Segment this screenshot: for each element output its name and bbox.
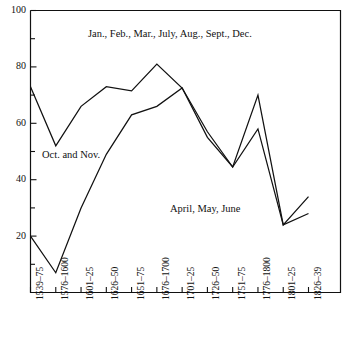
x-tick-label: 1626–50: [110, 266, 120, 299]
y-tick-label: 40: [0, 174, 26, 184]
x-tick-label: 1676–1700: [161, 257, 171, 300]
series-label-spring: April, May, June: [170, 203, 240, 215]
series-line-0: [31, 64, 309, 225]
x-tick-label: 1826–39: [313, 266, 323, 299]
x-tick-label: 1651–75: [136, 266, 146, 299]
x-tick-label: 1776–1800: [262, 257, 272, 300]
chart-root: 10080604020 1539–751576–16001601–251626–…: [0, 0, 351, 360]
x-tick-label: 1601–25: [85, 266, 95, 299]
x-tick-label: 1726–50: [211, 266, 221, 299]
y-tick-label: 80: [0, 61, 26, 71]
series-label-autumn: Oct. and Nov.: [42, 149, 100, 161]
line-chart-canvas: [0, 0, 351, 360]
series-label-winter: Jan., Feb., Mar., July, Aug., Sept., Dec…: [88, 28, 252, 40]
y-tick-label: 60: [0, 118, 26, 128]
x-tick-label: 1801–25: [287, 266, 297, 299]
y-tick-label: 20: [0, 231, 26, 241]
x-tick-label: 1539–75: [35, 266, 45, 299]
series-line-1: [31, 88, 309, 273]
x-tick-label: 1701–25: [186, 266, 196, 299]
x-tick-label: 1576–1600: [60, 257, 70, 300]
data-series-group: [31, 64, 309, 273]
y-tick-label: 100: [0, 5, 26, 15]
x-tick-label: 1751–75: [237, 266, 247, 299]
